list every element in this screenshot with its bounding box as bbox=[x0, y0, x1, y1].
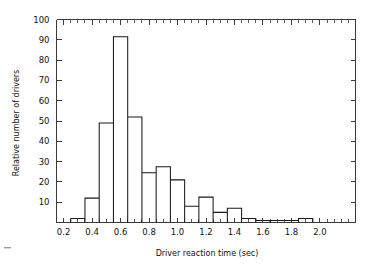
histogram-figure: Relative number of drivers Driver reacti… bbox=[0, 0, 378, 268]
scan-artifact-mark bbox=[4, 247, 11, 248]
x-axis-top-ticks bbox=[64, 20, 349, 25]
driver-reaction-time-histogram: Relative number of drivers Driver reacti… bbox=[0, 0, 378, 268]
y-tick-label: 70 bbox=[39, 75, 50, 85]
y-axis-title: Relative number of drivers bbox=[12, 70, 21, 177]
x-tick-label: 1.2 bbox=[199, 227, 213, 237]
y-tick-label: 60 bbox=[39, 96, 50, 106]
x-tick-label: 0.6 bbox=[114, 227, 128, 237]
x-tick-label: 0.4 bbox=[85, 227, 99, 237]
y-tick-label: 90 bbox=[39, 35, 50, 45]
y-tick-label: 100 bbox=[33, 15, 49, 25]
x-tick-label: 1.8 bbox=[285, 227, 299, 237]
x-axis-title: Driver reaction time (sec) bbox=[156, 249, 259, 258]
x-tick-label: 1.0 bbox=[171, 227, 185, 237]
x-tick-label: 2.0 bbox=[313, 227, 327, 237]
x-tick-label: 1.6 bbox=[256, 227, 270, 237]
x-tick-label: 0.2 bbox=[57, 227, 71, 237]
y-axis-ticks bbox=[57, 20, 356, 203]
y-axis-tick-labels: 102030405060708090100 bbox=[33, 15, 49, 208]
histogram-bars bbox=[71, 37, 313, 223]
x-axis-tick-labels: 0.20.40.60.81.01.21.41.61.82.0 bbox=[57, 227, 327, 237]
y-tick-label: 50 bbox=[39, 116, 50, 126]
y-tick-label: 10 bbox=[39, 197, 50, 207]
y-tick-label: 30 bbox=[39, 157, 50, 167]
y-tick-label: 80 bbox=[39, 55, 50, 65]
y-tick-label: 40 bbox=[39, 136, 50, 146]
x-tick-label: 0.8 bbox=[142, 227, 156, 237]
x-tick-label: 1.4 bbox=[228, 227, 242, 237]
plot-frame bbox=[57, 20, 356, 223]
y-tick-label: 20 bbox=[39, 177, 50, 187]
